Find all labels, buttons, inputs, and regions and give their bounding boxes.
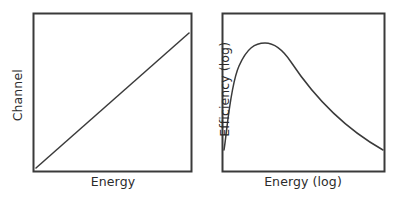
y-axis-label-efficiency: Efficiency (log)	[219, 24, 232, 154]
y-axis-label-channel: Channel	[12, 60, 25, 130]
panel-efficiency-vs-energy: Efficiency (log) Energy (log)	[197, 0, 397, 200]
plot-frame-right	[223, 14, 385, 172]
efficiency-curve	[224, 43, 383, 150]
x-axis-label-energy-log: Energy (log)	[253, 176, 353, 189]
calibration-line	[36, 33, 189, 168]
plot-area-left	[0, 0, 200, 200]
plot-frame-left	[34, 14, 192, 172]
panel-channel-vs-energy: Channel Energy	[0, 0, 200, 200]
two-panel-figure: Channel Energy Efficiency (log) Energy (…	[0, 0, 397, 200]
x-axis-label-energy: Energy	[63, 176, 163, 189]
